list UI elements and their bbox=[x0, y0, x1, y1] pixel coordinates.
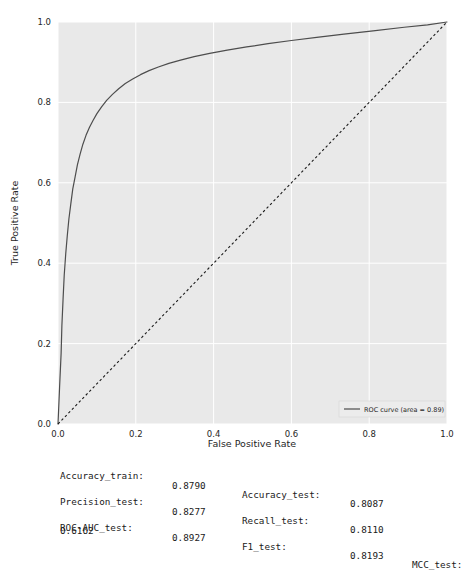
y-tick-0.8: 0.8 bbox=[37, 97, 51, 107]
y-tick-0.6: 0.6 bbox=[37, 178, 51, 188]
x-tick-0.0: 0.0 bbox=[51, 429, 65, 439]
chart-legend[interactable]: ROC curve (area = 0.89) bbox=[339, 401, 445, 417]
x-tick-0.8: 0.8 bbox=[362, 429, 376, 439]
y-tick-0.0: 0.0 bbox=[37, 419, 51, 429]
metrics-row: ROC-AUC_test: 0.8927 F1_test: 0.8193 MCC… bbox=[0, 514, 473, 540]
roc-curve-figure: 0.00.20.40.60.81.0 0.00.20.40.60.81.0 Fa… bbox=[0, 0, 473, 460]
metric-label-precision-test: Precision_test: bbox=[60, 497, 144, 506]
x-tick-1.0: 1.0 bbox=[440, 429, 454, 439]
metric-value-roc-auc-test: 0.8927 bbox=[172, 533, 206, 542]
x-axis-title: False Positive Rate bbox=[208, 438, 296, 449]
metric-label-mcc-test: MCC_test: bbox=[412, 560, 462, 569]
x-tick-0.2: 0.2 bbox=[129, 429, 143, 439]
metrics-row: Precision_test: 0.8277 Recall_test: 0.81… bbox=[0, 488, 473, 514]
metrics-summary-block: Accuracy_train: 0.8790 Accuracy_test: 0.… bbox=[0, 462, 473, 557]
y-tick-0.2: 0.2 bbox=[37, 339, 51, 349]
y-axis-title: True Positive Rate bbox=[9, 181, 20, 267]
y-tick-1.0: 1.0 bbox=[37, 17, 51, 27]
metric-value-f1-test: 0.8193 bbox=[350, 551, 384, 560]
legend-label-roc-curve: ROC curve (area = 0.89) bbox=[364, 406, 444, 414]
chart-canvas: 0.00.20.40.60.81.0 0.00.20.40.60.81.0 Fa… bbox=[0, 0, 473, 460]
metric-value-mcc-test: 0.6162 bbox=[60, 526, 94, 535]
metric-label-accuracy-train: Accuracy_train: bbox=[60, 471, 144, 480]
metric-label-f1-test: F1_test: bbox=[242, 542, 287, 551]
metrics-row: Accuracy_train: 0.8790 Accuracy_test: 0.… bbox=[0, 462, 473, 488]
y-tick-0.4: 0.4 bbox=[37, 258, 51, 268]
